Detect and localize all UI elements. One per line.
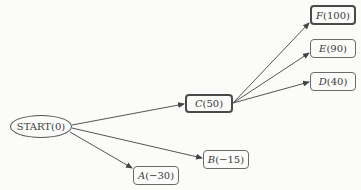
node-b-value: (−15) (215, 154, 244, 165)
node-a-label: A (138, 170, 145, 181)
edge-start-a (70, 132, 132, 168)
node-a: A(−30) (133, 166, 179, 185)
node-start: START(0) (10, 115, 72, 138)
edge-start-b (72, 128, 202, 158)
node-d-label: D (319, 76, 327, 87)
node-c-value: (50) (203, 98, 224, 109)
node-e-label: E (319, 43, 326, 54)
node-d-value: (40) (327, 76, 348, 87)
node-c: C(50) (185, 94, 233, 113)
node-d: D(40) (310, 72, 356, 91)
node-a-value: (−30) (145, 170, 174, 181)
node-e-value: (90) (326, 43, 347, 54)
edges-layer (0, 0, 361, 190)
node-start-label: START (17, 121, 51, 132)
edge-c-e (233, 53, 309, 103)
node-start-value: (0) (51, 121, 65, 132)
node-f-label: F (316, 10, 323, 21)
edge-start-c (72, 104, 184, 125)
node-f-value: (100) (323, 10, 350, 21)
edge-c-d (233, 82, 309, 103)
node-b: B(−15) (203, 150, 249, 169)
node-f: F(100) (310, 5, 356, 25)
node-c-label: C (195, 98, 203, 109)
node-e: E(90) (310, 39, 356, 58)
edge-c-f (233, 23, 309, 103)
node-b-label: B (208, 154, 215, 165)
